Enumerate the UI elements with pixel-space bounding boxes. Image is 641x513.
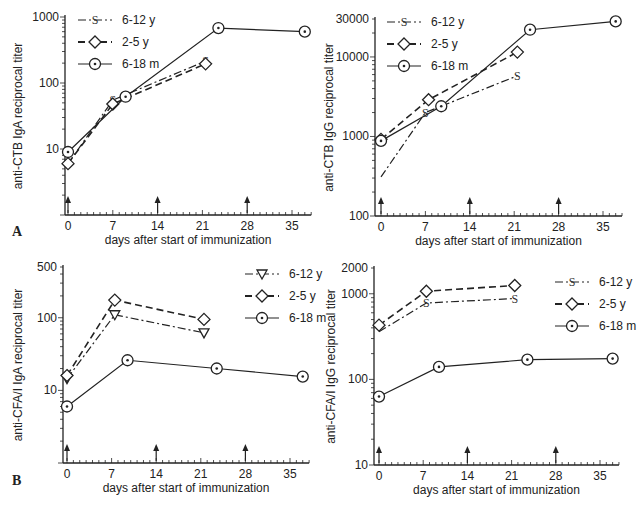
legend: S6-12 y2-5 y6-18 m <box>78 13 159 71</box>
legend-label: 2-5 y <box>289 289 316 303</box>
legend-2-5-y-marker <box>89 36 101 48</box>
6-18-m-marker <box>122 355 133 366</box>
x-tick-label: 21 <box>508 220 522 234</box>
6-18-m-marker <box>63 147 74 158</box>
6-12-y-marker: S <box>511 292 518 306</box>
y-tick-label: 100 <box>348 372 368 386</box>
legend-6-12-y-marker: S <box>569 275 576 289</box>
6-18-m-marker <box>211 363 222 374</box>
x-tick-label: 21 <box>505 469 519 483</box>
x-tick-label: 21 <box>194 467 208 481</box>
y-tick-label: 10 <box>46 142 60 156</box>
legend-label: 2-5 y <box>599 297 626 311</box>
immunization-arrow-icon <box>467 197 473 214</box>
6-18-m-marker <box>433 361 444 372</box>
x-tick-label: 14 <box>461 469 475 483</box>
svg-text:S: S <box>511 292 518 306</box>
legend-6-18-m-marker <box>257 313 268 324</box>
x-tick-label: 14 <box>463 220 477 234</box>
svg-text:S: S <box>401 15 408 29</box>
legend-6-18-m-marker <box>90 59 101 70</box>
svg-text:S: S <box>514 69 521 83</box>
legend-2-5-y-marker <box>256 290 268 302</box>
series-2-5-y <box>62 58 212 170</box>
immunization-arrow-icon <box>153 444 159 461</box>
6-12-y-marker: S <box>514 69 521 83</box>
6-18-m-marker <box>62 401 73 412</box>
legend-6-18-m-marker <box>399 61 410 72</box>
x-axis-label: days after start of immunization <box>105 233 272 247</box>
y-tick-label: 1000 <box>341 287 368 301</box>
x-tick-label: 7 <box>420 469 427 483</box>
y-tick-label: 2000 <box>341 261 368 275</box>
panel-letter: A <box>12 224 23 239</box>
immunization-arrow-icon <box>64 444 70 461</box>
x-tick-label: 7 <box>109 219 116 233</box>
x-axis-label: days after start of immunization <box>103 481 270 495</box>
6-12-y-marker: S <box>422 106 429 120</box>
2-5-y-marker <box>511 46 523 58</box>
6-18-m-marker <box>610 16 621 27</box>
legend-label: 6-12 y <box>122 13 155 27</box>
legend: S6-12 y2-5 y6-18 m <box>387 15 468 73</box>
y-tick-label: 100 <box>39 76 59 90</box>
legend-label: 6-18 m <box>122 57 159 71</box>
y-tick-label: 1000 <box>342 129 369 143</box>
series-6-18-m <box>376 16 622 147</box>
chart-panel-a-left: 0714212835days after start of immunizati… <box>11 10 311 247</box>
immunization-arrow-icon <box>556 197 562 214</box>
x-tick-label: 0 <box>64 467 71 481</box>
6-18-m-marker <box>299 26 310 37</box>
legend: S6-12 y2-5 y6-18 m <box>555 275 636 333</box>
6-18-m-marker <box>436 101 447 112</box>
immunization-arrow-icon <box>464 446 470 463</box>
legend-2-5-y-marker <box>398 38 410 50</box>
6-18-m-marker <box>213 23 224 34</box>
2-5-y-marker <box>198 313 210 325</box>
x-tick-label: 0 <box>376 469 383 483</box>
y-axis-label: anti-CTB IgA reciprocal titer <box>11 43 25 190</box>
y-tick-label: 30000 <box>336 12 370 26</box>
legend: 6-12 y2-5 y6-18 m <box>245 267 326 325</box>
chart-panel-b-left: 0714212835days after start of immunizati… <box>11 260 326 495</box>
y-tick-label: 10 <box>44 383 58 397</box>
x-tick-label: 7 <box>108 467 115 481</box>
y-tick-label: 1000 <box>32 10 59 24</box>
x-tick-label: 21 <box>196 219 210 233</box>
svg-text:S: S <box>569 275 576 289</box>
x-axis-label: days after start of immunization <box>413 483 580 497</box>
legend-2-5-y-marker <box>566 298 578 310</box>
immunization-arrow-icon <box>65 196 71 213</box>
chart-panel-b-right: 0714212835days after start of immunizati… <box>324 261 636 497</box>
series-6-12-y: SS <box>379 292 518 332</box>
x-tick-label: 7 <box>422 220 429 234</box>
y-axis-label: anti-CTB IgG reciprocal titer <box>322 43 336 192</box>
legend-label: 6-12 y <box>289 267 322 281</box>
x-axis-label: days after start of immunization <box>415 234 582 248</box>
2-5-y-marker <box>109 294 121 306</box>
6-18-m-marker <box>120 91 131 102</box>
x-tick-label: 14 <box>150 467 164 481</box>
legend-label: 6-12 y <box>599 275 632 289</box>
6-12-y-marker <box>199 329 209 338</box>
legend-6-12-y-marker: S <box>401 15 408 29</box>
y-tick-label: 100 <box>37 311 57 325</box>
svg-text:S: S <box>422 106 429 120</box>
series-6-18-m <box>374 353 619 402</box>
6-18-m-marker <box>297 371 308 382</box>
6-18-m-marker <box>522 354 533 365</box>
immunization-arrow-icon <box>244 196 250 213</box>
svg-text:S: S <box>92 13 99 27</box>
y-tick-label: 500 <box>37 260 57 274</box>
y-tick-label: 10000 <box>336 50 370 64</box>
chart-panel-a-right: 0714212835days after start of immunizati… <box>322 12 622 248</box>
x-tick-label: 35 <box>593 469 607 483</box>
y-tick-label: 10 <box>355 458 369 472</box>
series-2-5-y <box>373 279 521 331</box>
y-axis-label: anti-CFA/I IgA reciprocal titer <box>11 289 25 442</box>
series-2-5-y <box>61 294 210 381</box>
legend-label: 6-18 m <box>289 311 326 325</box>
2-5-y-marker <box>509 279 521 291</box>
x-tick-label: 35 <box>285 219 299 233</box>
6-18-m-marker <box>525 24 536 35</box>
